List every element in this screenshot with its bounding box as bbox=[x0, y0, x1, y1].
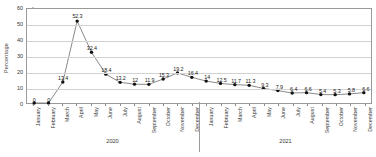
x-tick-mark bbox=[249, 104, 250, 106]
year-group-separator bbox=[199, 102, 200, 152]
x-tick-label: March bbox=[64, 107, 70, 122]
year-group-label: 2021 bbox=[279, 138, 291, 144]
year-group-band: 20202021 bbox=[26, 138, 372, 152]
y-tick-label: 50 bbox=[17, 21, 23, 27]
x-tick-mark bbox=[293, 104, 294, 106]
x-tick-mark bbox=[33, 104, 34, 106]
data-label: 52.3 bbox=[72, 13, 82, 19]
x-tick-label: February bbox=[223, 107, 229, 129]
x-tick-label: September bbox=[151, 107, 157, 133]
x-tick-label: November bbox=[179, 107, 185, 132]
data-label: 0 bbox=[47, 97, 50, 103]
data-label: 18.4 bbox=[101, 67, 111, 73]
x-tick-mark bbox=[91, 104, 92, 106]
x-tick-label: September bbox=[324, 107, 330, 133]
data-label: 7.9 bbox=[276, 84, 283, 90]
data-label: 16.4 bbox=[188, 70, 198, 76]
data-label: 11.7 bbox=[231, 78, 241, 84]
data-label: 5.8 bbox=[348, 87, 355, 93]
data-label: 5.3 bbox=[333, 88, 340, 94]
data-label: 14 bbox=[204, 74, 210, 80]
x-tick-label: May bbox=[266, 107, 272, 117]
gridline bbox=[27, 57, 371, 58]
x-tick-label: January bbox=[35, 107, 41, 126]
x-tick-mark bbox=[336, 104, 337, 106]
y-tick-label: 30 bbox=[17, 53, 23, 59]
x-tick-mark bbox=[322, 104, 323, 106]
y-tick-label: 20 bbox=[17, 69, 23, 75]
x-tick-mark bbox=[192, 104, 193, 106]
x-tick-mark bbox=[48, 104, 49, 106]
x-tick-label: April bbox=[78, 107, 84, 118]
x-tick-mark bbox=[134, 104, 135, 106]
data-label: 13.4 bbox=[58, 75, 68, 81]
plot-area: 0013.452.332.418.413.21211.915.319.216.4… bbox=[26, 8, 372, 104]
data-label: 6.6 bbox=[305, 86, 312, 92]
gridline bbox=[27, 73, 371, 74]
data-label: 0 bbox=[33, 97, 36, 103]
x-tick-label: June bbox=[107, 107, 113, 119]
x-tick-label: April bbox=[251, 107, 257, 118]
data-label: 11.9 bbox=[145, 77, 155, 83]
line-chart: Percentage 0102030405060 0013.452.332.41… bbox=[0, 0, 376, 157]
x-tick-mark bbox=[235, 104, 236, 106]
x-tick-label: February bbox=[50, 107, 56, 129]
data-label: 9.3 bbox=[261, 82, 268, 88]
data-point-marker bbox=[90, 51, 93, 54]
data-label: 32.4 bbox=[87, 45, 97, 51]
year-group-label: 2020 bbox=[106, 138, 118, 144]
x-tick-mark bbox=[221, 104, 222, 106]
x-tick-mark bbox=[206, 104, 207, 106]
data-label: 19.2 bbox=[173, 66, 183, 72]
y-tick-label: 60 bbox=[17, 5, 23, 11]
x-tick-label: July bbox=[295, 107, 301, 117]
x-tick-mark bbox=[350, 104, 351, 106]
y-tick-label: 40 bbox=[17, 37, 23, 43]
x-tick-label: June bbox=[280, 107, 286, 119]
x-tick-mark bbox=[163, 104, 164, 106]
data-label: 13.2 bbox=[116, 75, 126, 81]
data-label: 5.4 bbox=[319, 88, 326, 94]
x-tick-label: January bbox=[208, 107, 214, 126]
x-tick-mark bbox=[264, 104, 265, 106]
gridline bbox=[27, 25, 371, 26]
x-tick-mark bbox=[307, 104, 308, 106]
series-polyline bbox=[34, 21, 364, 103]
y-axis-tick-labels: 0102030405060 bbox=[8, 8, 24, 104]
x-tick-mark bbox=[62, 104, 63, 106]
x-tick-mark bbox=[149, 104, 150, 106]
x-tick-label: October bbox=[165, 107, 171, 126]
gridline bbox=[27, 41, 371, 42]
x-tick-label: December bbox=[367, 107, 373, 132]
x-tick-mark bbox=[365, 104, 366, 106]
x-tick-mark bbox=[177, 104, 178, 106]
x-tick-mark bbox=[76, 104, 77, 106]
x-tick-label: October bbox=[338, 107, 344, 126]
x-tick-label: November bbox=[352, 107, 358, 132]
data-point-marker bbox=[75, 19, 78, 22]
data-label: 6.6 bbox=[362, 86, 369, 92]
x-tick-label: August bbox=[136, 107, 142, 124]
x-tick-label: May bbox=[93, 107, 99, 117]
y-tick-label: 0 bbox=[20, 101, 23, 107]
data-label: 11.3 bbox=[246, 78, 256, 84]
x-tick-mark bbox=[120, 104, 121, 106]
x-tick-label: March bbox=[237, 107, 243, 122]
data-label: 6.4 bbox=[290, 86, 297, 92]
data-label: 12 bbox=[132, 77, 138, 83]
x-tick-label: August bbox=[309, 107, 315, 124]
data-label: 12.5 bbox=[217, 77, 227, 83]
x-tick-label: July bbox=[122, 107, 128, 117]
y-tick-label: 10 bbox=[17, 85, 23, 91]
data-label: 15.3 bbox=[159, 72, 169, 78]
